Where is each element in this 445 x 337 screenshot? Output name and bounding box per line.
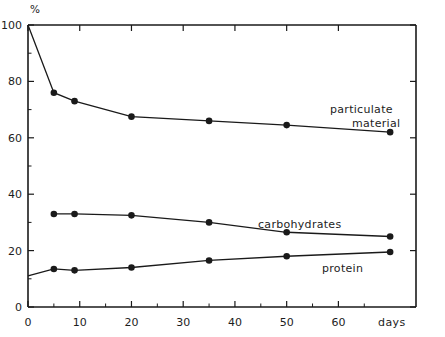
- y-axis-tick-labels: 020406080100: [1, 19, 22, 314]
- data-point: [71, 98, 78, 105]
- x-axis-ticks: [28, 25, 364, 307]
- y-tick-label: 20: [8, 245, 22, 258]
- series-label-particulate-line2: material: [352, 117, 400, 130]
- data-point: [51, 266, 58, 273]
- series-label-particulate-line1: particulate: [330, 103, 393, 116]
- data-point: [283, 122, 290, 129]
- line-chart: 0102030405060 020406080100 % days partic…: [0, 0, 445, 337]
- data-point: [206, 118, 213, 125]
- y-axis-unit-label: %: [30, 3, 40, 15]
- y-tick-label: 100: [1, 19, 22, 32]
- x-axis-title: days: [378, 316, 406, 329]
- data-point: [71, 211, 78, 218]
- x-tick-label: 30: [176, 316, 190, 329]
- x-tick-label: 10: [73, 316, 87, 329]
- y-tick-label: 60: [8, 132, 22, 145]
- series-particulate-material: [28, 25, 393, 135]
- data-point: [51, 89, 58, 96]
- x-tick-label: 0: [25, 316, 32, 329]
- series-carbohydrates: [51, 211, 394, 240]
- y-tick-label: 40: [8, 188, 22, 201]
- x-tick-label: 20: [124, 316, 138, 329]
- data-point: [128, 212, 135, 219]
- x-tick-label: 50: [280, 316, 294, 329]
- series-line: [28, 25, 390, 132]
- series-label-carbohydrates: carbohydrates: [258, 218, 341, 231]
- data-point: [206, 257, 213, 264]
- data-point: [71, 267, 78, 274]
- x-axis-tick-labels: 0102030405060: [25, 316, 346, 329]
- y-tick-label: 0: [15, 301, 22, 314]
- data-point: [206, 219, 213, 226]
- data-point: [128, 113, 135, 120]
- data-point: [387, 233, 394, 240]
- data-point: [387, 249, 394, 256]
- chart-container: 0102030405060 020406080100 % days partic…: [0, 0, 445, 337]
- y-tick-label: 80: [8, 75, 22, 88]
- x-tick-label: 60: [331, 316, 345, 329]
- data-point: [283, 253, 290, 260]
- series-label-protein: protein: [322, 262, 363, 275]
- data-point: [128, 264, 135, 271]
- x-tick-label: 40: [228, 316, 242, 329]
- data-series-layer: [28, 25, 393, 276]
- data-point: [51, 211, 58, 218]
